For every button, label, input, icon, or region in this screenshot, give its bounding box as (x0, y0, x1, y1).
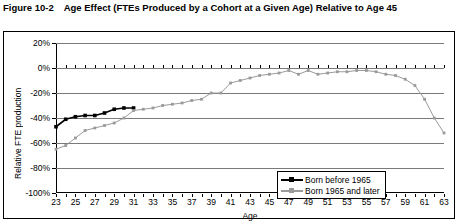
x-tick-minor (221, 194, 222, 197)
chart-legend: Born before 1965 Born 1965 and later (277, 171, 386, 199)
data-point (93, 114, 97, 118)
legend-label-series-2: Born 1965 and later (305, 186, 380, 196)
data-point (229, 82, 232, 85)
figure-number: Figure 10-2 (3, 2, 64, 15)
data-point (287, 69, 290, 72)
data-point (74, 137, 77, 140)
data-point (307, 69, 310, 72)
data-point (326, 72, 329, 75)
data-point (365, 69, 368, 72)
data-point (152, 107, 155, 110)
x-axis-title: Age (56, 211, 444, 221)
data-point (375, 70, 378, 73)
data-point (84, 129, 87, 132)
x-tick-label: 57 (381, 198, 390, 207)
x-tick-label: 29 (109, 198, 118, 207)
x-tick-label: 27 (90, 198, 99, 207)
y-tick-label: -60% (30, 139, 50, 148)
data-point (54, 125, 58, 129)
x-tick-minor (66, 194, 67, 197)
x-tick-label: 33 (148, 198, 157, 207)
x-tick-minor (396, 194, 397, 197)
x-tick-label: 53 (342, 198, 351, 207)
x-tick-label: 35 (168, 198, 177, 207)
data-point (64, 117, 68, 121)
data-point (123, 117, 126, 120)
x-tick-label: 55 (362, 198, 371, 207)
x-tick-label: 31 (129, 198, 138, 207)
y-tick-label: -80% (30, 164, 50, 173)
x-tick-minor (143, 194, 144, 197)
x-tick-minor (240, 194, 241, 197)
x-tick-minor (434, 194, 435, 197)
data-point (55, 148, 58, 151)
data-point (210, 92, 213, 95)
x-tick-label: 63 (439, 198, 448, 207)
data-point (103, 124, 106, 127)
zero-line-tick (444, 65, 445, 68)
x-tick-label: 41 (226, 198, 235, 207)
data-point (336, 70, 339, 73)
data-point (83, 114, 87, 118)
x-tick-minor (260, 194, 261, 197)
y-tick-label: -20% (30, 89, 50, 98)
data-point (161, 104, 164, 107)
data-point (113, 122, 116, 125)
data-point (103, 111, 107, 115)
y-tick-label: 0% (38, 64, 50, 73)
data-point (132, 109, 135, 112)
legend-item-born-before-1965: Born before 1965 (281, 174, 380, 185)
data-point (93, 127, 96, 130)
x-tick-label: 49 (303, 198, 312, 207)
y-tick-label: -40% (30, 114, 50, 123)
data-point (181, 102, 184, 105)
x-tick-label: 59 (400, 198, 409, 207)
data-point (414, 84, 417, 87)
chart-container: Relative FTE production 20%0%-20%-40%-60… (3, 31, 455, 219)
legend-swatch-series-2 (281, 186, 303, 195)
x-tick-minor (105, 194, 106, 197)
data-point (200, 98, 203, 101)
data-point (346, 70, 349, 73)
data-point (239, 79, 242, 82)
data-point (122, 106, 126, 110)
legend-label-series-1: Born before 1965 (305, 175, 371, 185)
data-point (355, 69, 358, 72)
plot-area: 20%0%-20%-40%-60%-80%-100% 2325272931333… (56, 43, 444, 193)
figure-caption: Age Effect (FTEs Produced by a Cohort at… (64, 2, 397, 15)
x-tick-label: 23 (51, 198, 60, 207)
x-tick-minor (415, 194, 416, 197)
data-point (74, 115, 78, 119)
data-point (268, 73, 271, 76)
legend-swatch-series-1 (281, 175, 303, 184)
figure-title: Figure 10-2 Age Effect (FTEs Produced by… (3, 2, 455, 15)
data-point (317, 73, 320, 76)
x-tick-minor (163, 194, 164, 197)
data-point (443, 132, 446, 135)
y-tick-label: 20% (33, 39, 50, 48)
data-point (249, 77, 252, 80)
data-point (404, 78, 407, 81)
x-tick-label: 45 (265, 198, 274, 207)
series-line (56, 108, 134, 127)
y-axis-title: Relative FTE production (12, 63, 24, 203)
data-point (190, 99, 193, 102)
data-point (220, 92, 223, 95)
x-tick-label: 39 (206, 198, 215, 207)
data-point (258, 74, 261, 77)
x-tick-label: 61 (420, 198, 429, 207)
data-point (278, 72, 281, 75)
x-tick-label: 37 (187, 198, 196, 207)
data-point (171, 103, 174, 106)
x-tick-label: 25 (71, 198, 80, 207)
data-point (384, 73, 387, 76)
data-point (297, 73, 300, 76)
legend-item-born-1965-and-later: Born 1965 and later (281, 185, 380, 196)
data-point (423, 98, 426, 101)
x-tick-minor (202, 194, 203, 197)
x-tick-label: 51 (323, 198, 332, 207)
x-tick-label: 47 (284, 198, 293, 207)
data-point (142, 108, 145, 111)
x-tick-minor (85, 194, 86, 197)
series-layer (56, 43, 444, 193)
